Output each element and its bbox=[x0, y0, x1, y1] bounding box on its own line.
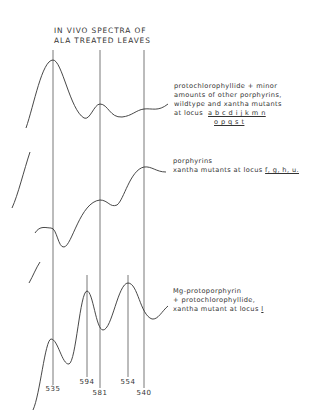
locus-prefix: at locus bbox=[174, 109, 203, 117]
label-line: + protochlorophyllide, bbox=[173, 296, 263, 305]
label-middle-spectrum: porphyrins xantha mutants at locus f, g,… bbox=[173, 157, 299, 175]
label-bottom-spectrum: Mg-protoporphyrin + protochlorophyllide,… bbox=[173, 287, 263, 314]
locus-prefix: xantha mutant at locus bbox=[173, 305, 259, 313]
locus-list-1: a b c d i j k m n bbox=[208, 109, 266, 117]
spectra-plot bbox=[0, 0, 320, 418]
label-line: o p q s t bbox=[174, 118, 282, 127]
spectrum-top bbox=[26, 60, 168, 128]
locus-list: f, g, h, u. bbox=[265, 166, 299, 174]
wavelength-label-540: 540 bbox=[137, 389, 152, 397]
label-line: at locus a b c d i j k m n bbox=[174, 109, 282, 118]
label-line: porphyrins bbox=[173, 157, 299, 166]
label-line: wildtype and xantha mutants bbox=[174, 100, 282, 109]
label-line: amounts of other porphyrins, bbox=[174, 91, 282, 100]
label-line: xantha mutant at locus l bbox=[173, 305, 263, 314]
spectrum-middle bbox=[12, 152, 166, 247]
label-top-spectrum: protochlorophyllide + minor amounts of o… bbox=[174, 82, 282, 127]
label-line: Mg-protoporphyrin bbox=[173, 287, 263, 296]
wavelength-label-554: 554 bbox=[121, 378, 136, 386]
wavelength-label-535: 535 bbox=[46, 385, 61, 393]
wavelength-label-581: 581 bbox=[93, 389, 108, 397]
label-line: protochlorophyllide + minor bbox=[174, 82, 282, 91]
wavelength-label-594: 594 bbox=[80, 378, 95, 386]
locus-prefix: xantha mutants at locus bbox=[173, 166, 263, 174]
label-line: xantha mutants at locus f, g, h, u. bbox=[173, 166, 299, 175]
locus-list: l bbox=[261, 305, 263, 313]
locus-list-2: o p q s t bbox=[214, 118, 244, 126]
